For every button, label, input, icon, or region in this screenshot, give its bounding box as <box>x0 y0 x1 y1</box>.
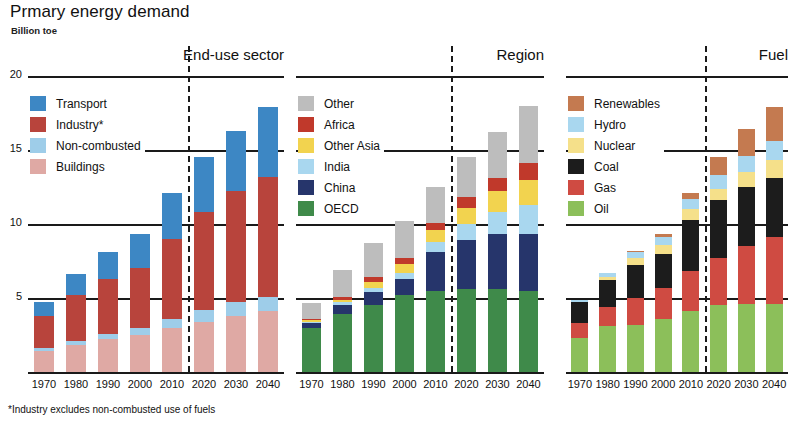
bar-segment-oecd <box>364 305 383 372</box>
bar-segment-industry <box>226 191 246 302</box>
legend-item-label: Hydro <box>594 118 626 132</box>
bar-segment-non-combusted <box>162 319 182 328</box>
legend-item-industry: Industry* <box>30 114 141 135</box>
x-tick-label: 2020 <box>705 378 733 390</box>
bar-segment-oecd <box>333 314 352 372</box>
bar-segment-other <box>364 243 383 277</box>
legend-item-oil: Oil <box>568 198 660 219</box>
bar-2010 <box>682 193 699 372</box>
legend-swatch-icon <box>30 117 46 132</box>
legend-item-label: Other <box>324 97 354 111</box>
bar-segment-nuclear <box>710 189 727 201</box>
bar-segment-other-asia <box>457 208 476 224</box>
legend-item-label: Buildings <box>56 160 105 174</box>
x-tick-label: 1970 <box>566 378 594 390</box>
legend-item-nuclear: Nuclear <box>568 135 660 156</box>
x-tick-label: 1970 <box>296 378 327 390</box>
bar-segment-oecd <box>457 289 476 372</box>
bar-segment-india <box>457 224 476 240</box>
bar-segment-oecd <box>395 295 414 372</box>
bar-segment-oecd <box>302 328 321 372</box>
legend-item-oecd: OECD <box>298 198 380 219</box>
legend-item-china: China <box>298 177 380 198</box>
bar-segment-coal <box>599 280 616 307</box>
x-tick-label: 1980 <box>327 378 358 390</box>
legend-item-other-asia: Other Asia <box>298 135 380 156</box>
legend-swatch-icon <box>298 180 314 195</box>
bar-segment-china <box>488 234 507 289</box>
legend-item-label: Coal <box>594 160 619 174</box>
bar-1970 <box>571 300 588 373</box>
bar-segment-industry <box>66 295 86 341</box>
bar-segment-industry <box>258 177 278 297</box>
bar-segment-china <box>395 279 414 295</box>
y-tick-label: 15 <box>0 142 22 154</box>
legend-item-label: Other Asia <box>324 139 380 153</box>
bar-segment-hydro <box>682 199 699 209</box>
legend-swatch-icon <box>568 201 584 216</box>
footnote: *Industry excludes non-combusted use of … <box>8 404 215 415</box>
legend-swatch-icon <box>568 138 584 153</box>
bar-segment-coal <box>710 200 727 258</box>
bar-segment-industry <box>194 212 214 310</box>
x-tick-label: 2010 <box>677 378 705 390</box>
bar-2030 <box>738 129 755 372</box>
legend-swatch-icon <box>568 96 584 111</box>
bar-2010 <box>426 187 445 372</box>
bar-segment-china <box>426 252 445 290</box>
bar-segment-buildings <box>258 311 278 372</box>
legend-swatch-icon <box>30 138 46 153</box>
bar-2010 <box>162 193 182 372</box>
bar-segment-gas <box>655 288 672 319</box>
figure-root: Prmary energy demand Billion toe 2015105… <box>0 0 791 428</box>
bar-segment-buildings <box>194 322 214 372</box>
bar-segment-buildings <box>130 335 150 372</box>
legend-item-africa: Africa <box>298 114 380 135</box>
bar-2030 <box>226 131 246 372</box>
legend-item-label: China <box>324 181 355 195</box>
x-tick-label: 2040 <box>760 378 788 390</box>
bar-segment-oil <box>655 319 672 372</box>
bar-1970 <box>34 302 54 372</box>
bar-segment-hydro <box>710 175 727 188</box>
bar-segment-oil <box>571 338 588 372</box>
x-axis-labels-region: 19701980199020002010202020302040 <box>296 378 544 394</box>
bar-segment-hydro <box>655 237 672 244</box>
bar-segment-oecd <box>488 289 507 372</box>
y-tick-label: 5 <box>0 290 22 302</box>
bar-segment-other <box>519 106 538 164</box>
bar-segment-transport <box>66 274 86 295</box>
bar-2020 <box>457 157 476 372</box>
bar-2000 <box>395 221 414 372</box>
legend-item-buildings: Buildings <box>30 156 141 177</box>
bar-segment-buildings <box>66 345 86 372</box>
x-tick-label: 1980 <box>60 378 92 390</box>
bar-segment-gas <box>738 246 755 304</box>
bar-1970 <box>302 303 321 373</box>
bar-segment-non-combusted <box>194 310 214 322</box>
bar-segment-oil <box>599 326 616 372</box>
x-tick-label: 1990 <box>622 378 650 390</box>
bar-segment-india <box>519 205 538 235</box>
bar-2020 <box>710 157 727 372</box>
bar-segment-other <box>488 132 507 178</box>
bar-segment-other-asia <box>519 180 538 205</box>
legend-swatch-icon <box>298 201 314 216</box>
x-axis-labels-fuel: 19701980199020002010202020302040 <box>566 378 788 394</box>
bar-segment-oecd <box>519 291 538 372</box>
bar-segment-nuclear <box>655 245 672 254</box>
bar-segment-other-asia <box>395 264 414 273</box>
bar-segment-oil <box>738 304 755 372</box>
bar-segment-africa <box>488 178 507 191</box>
legend-item-india: India <box>298 156 380 177</box>
bar-segment-transport <box>194 157 214 212</box>
bar-segment-transport <box>98 252 118 279</box>
bar-2040 <box>258 107 278 372</box>
legend-item-label: Gas <box>594 181 616 195</box>
bar-segment-non-combusted <box>130 328 150 335</box>
bar-1980 <box>599 273 616 372</box>
panel-title-fuel: Fuel <box>759 46 788 63</box>
x-tick-label: 2020 <box>451 378 482 390</box>
y-tick-label: 10 <box>0 216 22 228</box>
bar-2020 <box>194 157 214 372</box>
